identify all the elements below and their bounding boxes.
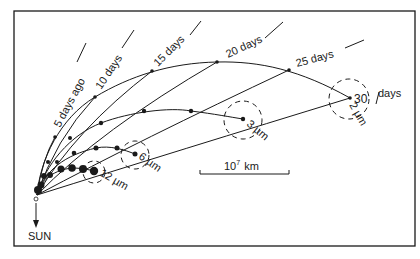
label-30-days: days	[378, 87, 402, 99]
nucleus	[34, 197, 38, 201]
comet-tail-diagram: 5 days ago 10 days 15 days 20 days 25 da…	[0, 0, 420, 259]
figure-frame	[14, 11, 415, 246]
scale-base: 10	[224, 160, 236, 172]
sun-label: SUN	[28, 230, 51, 242]
scale-exponent: 7	[236, 159, 240, 166]
scale-unit: km	[244, 160, 259, 172]
